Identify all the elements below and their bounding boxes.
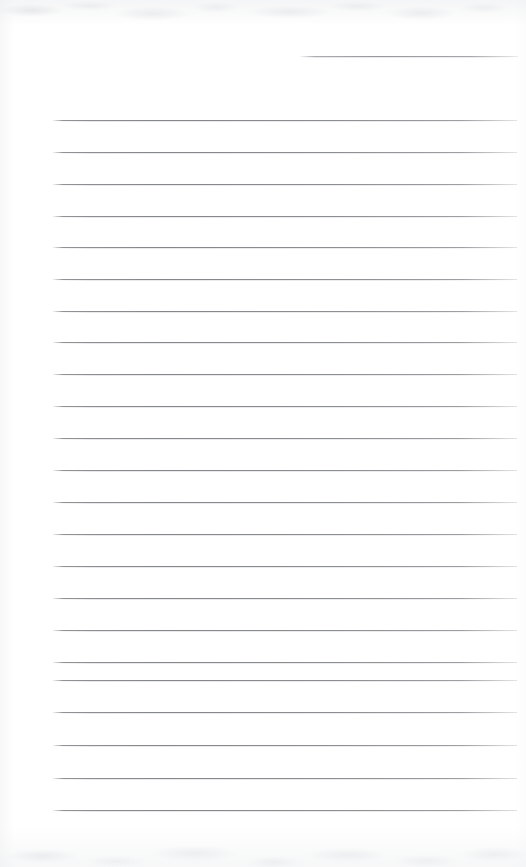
ruled-line-18 [53, 662, 517, 663]
scan-noise-bottom-band [0, 827, 526, 867]
ruled-line-9 [53, 374, 517, 375]
top-right-short-rule [300, 56, 518, 57]
rule-halo [53, 631, 517, 632]
ruled-line-11 [53, 438, 517, 439]
ruled-line-19 [53, 680, 517, 681]
rule-halo [53, 121, 517, 122]
rule-halo [53, 248, 517, 249]
rule-halo [53, 713, 517, 714]
ruled-line-20 [53, 712, 517, 713]
rule-halo [53, 535, 517, 536]
paper-tone-overlay [0, 0, 526, 867]
scan-noise-top-band [0, 0, 526, 26]
rule-halo [53, 663, 517, 664]
rule-halo [53, 375, 517, 376]
ruled-line-3 [53, 184, 517, 185]
ruled-line-4 [53, 216, 517, 217]
rule-halo [53, 503, 517, 504]
ruled-line-13 [53, 502, 517, 503]
rule-halo [53, 343, 517, 344]
rule-halo [53, 471, 517, 472]
ruled-line-7 [53, 311, 517, 312]
ruled-line-22 [53, 778, 517, 779]
ruled-line-21 [53, 745, 517, 746]
rule-halo [53, 599, 517, 600]
ruled-line-6 [53, 279, 517, 280]
ruled-line-23 [53, 810, 517, 811]
rule-halo [53, 153, 517, 154]
ruled-line-16 [53, 598, 517, 599]
rule-halo [53, 567, 517, 568]
ruled-line-10 [53, 406, 517, 407]
ruled-line-1 [53, 120, 517, 121]
rule-halo [53, 779, 517, 780]
rule-halo [53, 217, 517, 218]
ruled-line-2 [53, 152, 517, 153]
rule-halo [53, 185, 517, 186]
rule-halo [53, 811, 517, 812]
ruled-line-12 [53, 470, 517, 471]
ruled-line-15 [53, 566, 517, 567]
rule-halo [53, 681, 517, 682]
rule-halo [53, 280, 517, 281]
rule-halo [300, 57, 518, 58]
rule-halo [53, 407, 517, 408]
rule-halo [53, 312, 517, 313]
ruled-line-5 [53, 247, 517, 248]
ruled-line-14 [53, 534, 517, 535]
scanned-page [0, 0, 526, 867]
rule-halo [53, 439, 517, 440]
ruled-line-8 [53, 342, 517, 343]
ruled-line-17 [53, 630, 517, 631]
rule-halo [53, 746, 517, 747]
